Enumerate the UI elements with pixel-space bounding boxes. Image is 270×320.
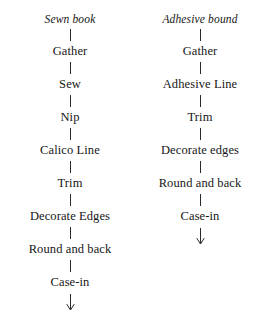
process-column-2: Adhesive boundGatherAdhesive LineTrimDec… [136, 12, 264, 245]
down-arrow-icon [195, 228, 206, 245]
down-arrow-icon [65, 294, 76, 311]
process-step: Case-in [181, 209, 220, 224]
process-step: Gather [53, 44, 88, 59]
process-step: Decorate edges [161, 143, 239, 158]
process-step: Trim [58, 176, 83, 191]
vertical-line-connector [70, 194, 71, 206]
process-step: Decorate Edges [30, 209, 110, 224]
process-step: Gather [183, 44, 218, 59]
vertical-line-connector [70, 95, 71, 107]
process-step: Nip [60, 110, 79, 125]
process-step: Round and back [159, 176, 242, 191]
process-step: Round and back [29, 242, 112, 257]
process-flow-diagram: Sewn bookGatherSewNipCalico LineTrimDeco… [0, 0, 270, 320]
process-step: Calico Line [40, 143, 100, 158]
vertical-line-connector [200, 128, 201, 140]
process-column-1: Sewn bookGatherSewNipCalico LineTrimDeco… [6, 12, 134, 311]
vertical-line-connector [200, 194, 201, 206]
process-step: Case-in [51, 275, 90, 290]
vertical-line-connector [200, 161, 201, 173]
vertical-line-connector [70, 161, 71, 173]
vertical-line-connector [70, 260, 71, 272]
vertical-line-connector [200, 62, 201, 74]
vertical-line-connector [200, 95, 201, 107]
vertical-line-connector [70, 227, 71, 239]
vertical-line-connector [70, 29, 71, 41]
column-heading: Adhesive bound [162, 12, 237, 26]
vertical-line-connector [70, 62, 71, 74]
process-step: Adhesive Line [163, 77, 238, 92]
vertical-line-connector [70, 128, 71, 140]
process-step: Sew [59, 77, 81, 92]
column-heading: Sewn book [45, 12, 96, 26]
process-step: Trim [188, 110, 213, 125]
vertical-line-connector [200, 29, 201, 41]
